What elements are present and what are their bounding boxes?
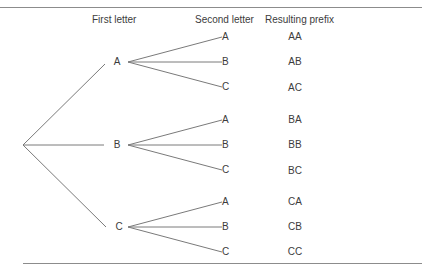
second-node: B: [222, 221, 229, 233]
second-node: B: [222, 139, 229, 151]
second-node: C: [222, 246, 229, 258]
prefix: CA: [288, 196, 302, 208]
prefix: CC: [288, 246, 302, 258]
second-node: C: [222, 81, 229, 93]
prefix: AA: [288, 31, 301, 43]
header-second-letter: Second letter: [195, 14, 254, 26]
first-node-a: A: [114, 56, 121, 68]
tree-lines: [0, 0, 434, 278]
prefix: BC: [288, 165, 302, 177]
second-node: A: [222, 196, 229, 208]
first-node-c: C: [115, 221, 122, 233]
second-node: B: [222, 56, 229, 68]
prefix: AC: [288, 82, 302, 94]
second-node: A: [222, 31, 229, 43]
prefix: BB: [288, 139, 301, 151]
second-node: A: [222, 114, 229, 126]
header-resulting-prefix: Resulting prefix: [265, 14, 334, 26]
prefix: CB: [288, 221, 302, 233]
second-node: C: [222, 164, 229, 176]
header-first-letter: First letter: [92, 14, 136, 26]
prefix: BA: [288, 114, 301, 126]
first-node-b: B: [114, 139, 121, 151]
prefix: AB: [288, 56, 301, 68]
